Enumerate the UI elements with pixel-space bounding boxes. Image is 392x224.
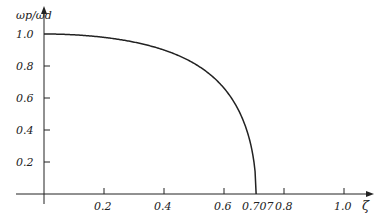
y-tick-label: 1.0	[16, 29, 34, 40]
y-axis-label: ωp/ωd	[16, 10, 52, 21]
y-tick-label: 0.6	[16, 93, 34, 104]
series-line	[44, 34, 256, 194]
x-tick-label: 0.8	[275, 201, 293, 212]
x-axis-label: ζ	[362, 199, 369, 212]
y-ticks	[44, 66, 50, 162]
x-tick-label: 0.6	[214, 201, 232, 212]
x-tick-label: 0.707	[242, 201, 274, 212]
y-tick-label: 0.2	[16, 157, 34, 168]
x-axis-arrow-icon	[366, 191, 374, 197]
x-ticks	[104, 188, 344, 194]
x-tick-label: 0.4	[154, 201, 172, 212]
y-tick-label: 0.4	[16, 125, 34, 136]
chart-canvas	[0, 0, 392, 224]
x-tick-label: 1.0	[334, 201, 352, 212]
y-tick-label: 0.8	[16, 61, 34, 72]
x-tick-label: 0.2	[94, 201, 112, 212]
